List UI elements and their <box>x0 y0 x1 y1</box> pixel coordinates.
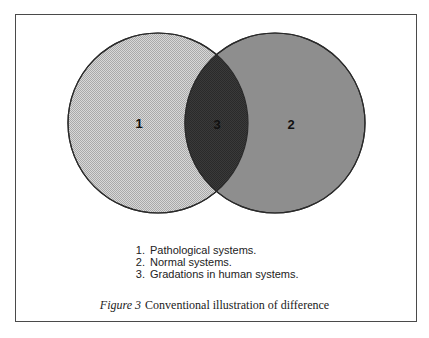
legend-item: 3.Gradations in human systems. <box>131 268 299 280</box>
legend-number: 3. <box>131 268 145 280</box>
label-region-1: 1 <box>135 116 142 131</box>
venn-diagram: 1 3 2 <box>0 0 429 338</box>
legend-text: Gradations in human systems. <box>150 268 299 280</box>
legend-number: 2. <box>131 256 145 268</box>
legend: 1.Pathological systems. 2.Normal systems… <box>131 244 299 280</box>
legend-text: Pathological systems. <box>150 244 256 256</box>
legend-number: 1. <box>131 244 145 256</box>
legend-item: 1.Pathological systems. <box>131 244 299 256</box>
legend-text: Normal systems. <box>150 256 232 268</box>
legend-item: 2.Normal systems. <box>131 256 299 268</box>
label-region-3: 3 <box>213 117 220 132</box>
figure-number: Figure 3 <box>100 298 141 312</box>
caption-text: Conventional illustration of difference <box>145 298 329 312</box>
figure-caption: Figure 3Conventional illustration of dif… <box>0 298 429 313</box>
label-region-2: 2 <box>287 117 294 132</box>
